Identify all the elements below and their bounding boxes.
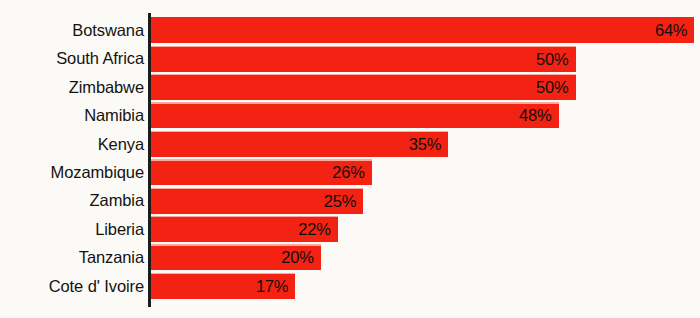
bar-track: 20% [151,243,321,271]
value-label-zimbabwe: 50% [536,74,568,100]
bar-track: 64% [151,16,694,44]
bar-row: Zambia 25% [0,186,700,214]
category-label-south-africa: South Africa [0,44,144,72]
category-label-namibia: Namibia [0,101,144,129]
bar-track: 22% [151,215,338,243]
plot-area: Botswana 64% South Africa 50% Zimbabwe [0,0,700,318]
value-label-liberia: 22% [298,216,330,242]
bar-liberia: 22% [151,216,338,242]
value-label-namibia: 48% [519,102,551,128]
value-label-tanzania: 20% [281,244,313,270]
bar-row: Tanzania 20% [0,243,700,271]
bar-track: 50% [151,44,576,72]
bar-chart: Botswana 64% South Africa 50% Zimbabwe [0,0,700,318]
value-label-zambia: 25% [324,188,356,214]
bar-zambia: 25% [151,188,363,214]
bar-kenya: 35% [151,131,448,157]
value-label-kenya: 35% [409,131,441,157]
value-label-mozambique: 26% [332,159,364,185]
category-axis-line [148,13,151,307]
category-label-tanzania: Tanzania [0,243,144,271]
value-label-cote-divoire: 17% [256,273,288,299]
bar-row: South Africa 50% [0,44,700,72]
bar-track: 48% [151,101,559,129]
bar-row: Liberia 22% [0,215,700,243]
bar-row: Cote d' Ivoire 17% [0,272,700,300]
category-label-zimbabwe: Zimbabwe [0,73,144,101]
category-label-liberia: Liberia [0,215,144,243]
bar-south-africa: 50% [151,46,576,72]
bar-tanzania: 20% [151,244,321,270]
bar-track: 50% [151,73,576,101]
bar-track: 35% [151,130,448,158]
value-label-botswana: 64% [655,17,687,43]
bar-mozambique: 26% [151,159,372,185]
bar-row: Namibia 48% [0,101,700,129]
category-label-zambia: Zambia [0,186,144,214]
bar-row: Kenya 35% [0,130,700,158]
bar-zimbabwe: 50% [151,74,576,100]
value-label-south-africa: 50% [536,46,568,72]
category-label-cote-divoire: Cote d' Ivoire [0,272,144,300]
category-label-kenya: Kenya [0,130,144,158]
bar-row: Zimbabwe 50% [0,73,700,101]
bar-rows: Botswana 64% South Africa 50% Zimbabwe [0,16,700,300]
bar-track: 25% [151,186,363,214]
bar-cote-divoire: 17% [151,273,295,299]
bar-track: 26% [151,158,372,186]
category-label-botswana: Botswana [0,16,144,44]
bar-row: Botswana 64% [0,16,700,44]
category-label-mozambique: Mozambique [0,158,144,186]
bar-row: Mozambique 26% [0,158,700,186]
bar-namibia: 48% [151,102,559,128]
bar-botswana: 64% [151,17,694,43]
bar-track: 17% [151,272,295,300]
